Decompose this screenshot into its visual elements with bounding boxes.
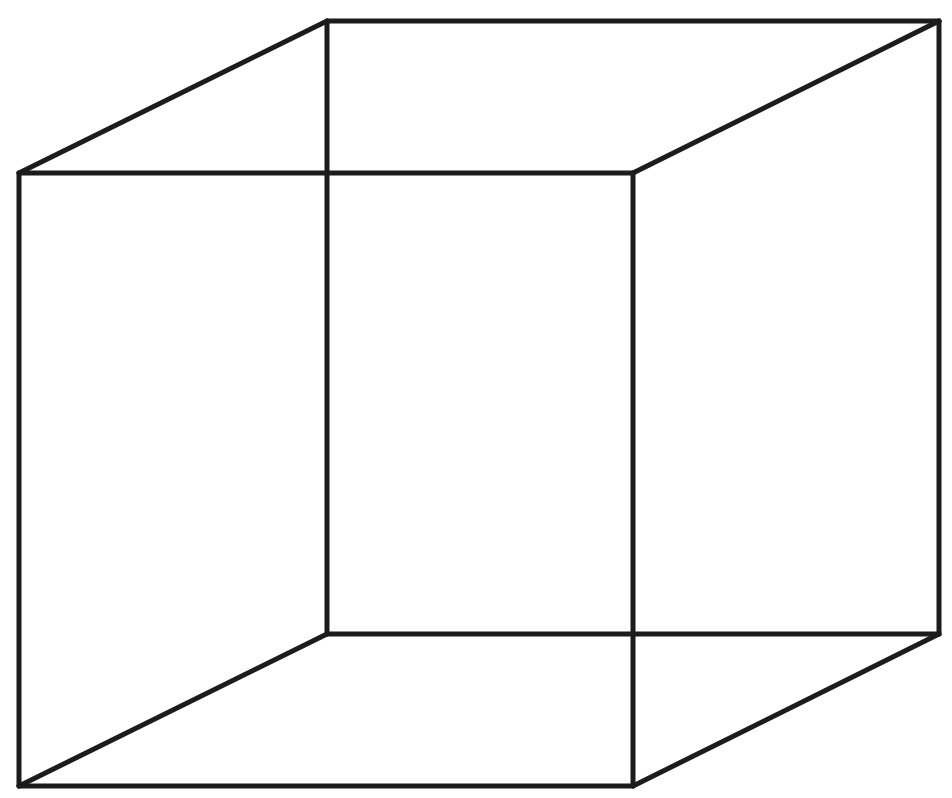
diagram-canvas	[0, 0, 952, 798]
edge-front-top-left-to-back-top-left	[19, 21, 327, 173]
cube-edges	[19, 21, 939, 786]
edge-front-bottom-left-to-back-bottom-left	[19, 634, 327, 786]
edge-front-bottom-right-to-back-bottom-right	[633, 634, 939, 786]
necker-cube	[0, 0, 952, 798]
edge-front-top-right-to-back-top-right	[633, 21, 939, 173]
